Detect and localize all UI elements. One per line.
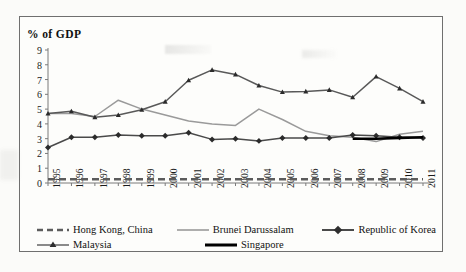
y-axis-title: % of GDP [27, 28, 81, 40]
data-point [279, 135, 285, 141]
data-point [139, 133, 145, 139]
light-line-key-icon [176, 225, 210, 235]
data-point [186, 130, 192, 136]
y-tick-label: 2 [26, 148, 42, 159]
data-point [68, 134, 74, 140]
legend-item-hong-kong-china[interactable]: Hong Kong, China [36, 224, 176, 235]
y-tick-label: 0 [26, 178, 42, 189]
y-tick-label: 9 [26, 45, 42, 56]
data-point [162, 133, 168, 139]
y-tick-label: 1 [26, 163, 42, 174]
legend-label: Republic of Korea [358, 224, 436, 235]
chart-legend: Hong Kong, China Brunei Darussalam Repub… [36, 222, 436, 252]
legend-label: Malaysia [73, 239, 112, 250]
data-point [209, 136, 215, 142]
scan-artifact [0, 150, 18, 180]
y-tick-label: 7 [26, 74, 42, 85]
legend-row-1: Hong Kong, China Brunei Darussalam Repub… [36, 222, 436, 237]
legend-label: Brunei Darussalam [213, 224, 294, 235]
diamond-line-key-icon [321, 225, 355, 235]
data-point [115, 132, 121, 138]
series-singapore [353, 137, 423, 139]
y-tick-label: 6 [26, 89, 42, 100]
data-point [303, 135, 309, 141]
legend-item-brunei-darussalam[interactable]: Brunei Darussalam [176, 224, 322, 235]
series-line [353, 137, 423, 139]
y-tick-label: 4 [26, 118, 42, 129]
legend-item-malaysia[interactable]: Malaysia [36, 239, 204, 250]
y-tick-label: 5 [26, 104, 42, 115]
y-tick-label: 8 [26, 59, 42, 70]
thick-line-key-icon [204, 240, 238, 250]
legend-item-singapore[interactable]: Singapore [204, 239, 284, 250]
data-point [233, 136, 239, 142]
plot-area [48, 50, 423, 183]
legend-item-republic-of-korea[interactable]: Republic of Korea [321, 224, 436, 235]
legend-row-2: Malaysia Singapore [36, 237, 436, 252]
data-point [374, 74, 379, 79]
y-tick-label: 3 [26, 133, 42, 144]
dashed-key-icon [36, 225, 70, 235]
data-point [92, 134, 98, 140]
triangle-line-key-icon [36, 240, 70, 250]
legend-label: Hong Kong, China [73, 224, 153, 235]
legend-label: Singapore [241, 239, 284, 250]
data-point [256, 138, 262, 144]
